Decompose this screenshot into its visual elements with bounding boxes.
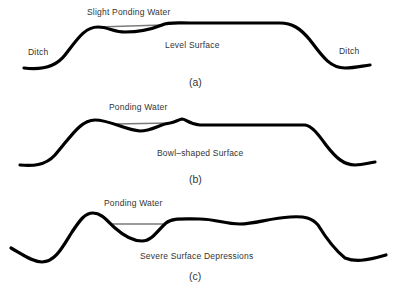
panel-a-left-ditch-label: Ditch <box>28 48 48 57</box>
panel-a-water-label: Slight Ponding Water <box>87 8 171 17</box>
panel-a-right-ditch-label: Ditch <box>339 47 359 56</box>
panel-a-surface-label: Level Surface <box>165 41 220 50</box>
panel-b-surface-label: Bowl–shaped Surface <box>157 149 244 158</box>
panel-b-ground-line <box>20 119 375 165</box>
panel-b-caption: (b) <box>189 174 202 185</box>
panel-c-surface-label: Severe Surface Depressions <box>140 252 253 261</box>
panel-b-water-label: Ponding Water <box>109 103 168 112</box>
panel-c-water-label: Ponding Water <box>104 199 163 208</box>
panel-b-profile <box>20 119 375 165</box>
panel-a-caption: (a) <box>189 77 202 88</box>
panel-c-caption: (c) <box>189 271 201 282</box>
